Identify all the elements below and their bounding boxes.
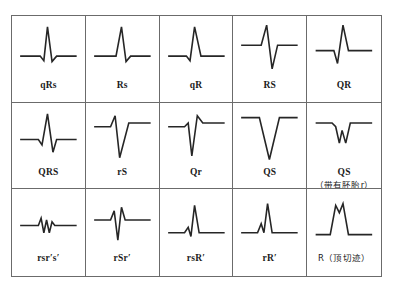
- qrs-label-group: qR: [190, 78, 203, 91]
- qrs-cell-rsR-prime: rsR′: [160, 189, 234, 276]
- qrs-label: rR′: [263, 253, 277, 264]
- qrs-label: Rs: [117, 80, 128, 91]
- waveform-trace: [316, 204, 373, 235]
- ecg-waveform-rSr-prime: [86, 189, 159, 251]
- waveform-trace: [20, 114, 77, 152]
- qrs-morphology-table: qRs Rs qR RS: [11, 15, 382, 277]
- qrs-label-group: rsr′s′: [37, 251, 59, 264]
- qrs-label-group: QS （带有胚胎r）: [315, 165, 374, 190]
- qrs-cell-qR: qR: [160, 16, 234, 103]
- qrs-label-group: rsR′: [187, 251, 205, 264]
- qrs-cell-rR-prime: rR′: [233, 189, 307, 276]
- ecg-waveform-rsr-prime-s-prime: [12, 189, 85, 251]
- waveform-trace: [20, 27, 77, 62]
- waveform-trace: [94, 208, 151, 241]
- qrs-cell-Qr: Qr: [160, 103, 234, 190]
- qrs-label: rsr′s′: [37, 253, 59, 264]
- qrs-label-group: QRS: [38, 165, 58, 178]
- waveform-trace: [20, 219, 77, 234]
- qrs-label-group: R（顶切迹）: [318, 251, 370, 264]
- waveform-trace: [316, 123, 373, 143]
- qrs-label: QS: [263, 167, 276, 178]
- qrs-cell-RS: RS: [233, 16, 307, 103]
- qrs-label: QR: [337, 80, 352, 91]
- ecg-waveform-QRS: [12, 103, 85, 165]
- qrs-label: rsR′: [187, 253, 205, 264]
- qrs-label: QRS: [38, 167, 58, 178]
- ecg-waveform-R-notched-top: [307, 189, 381, 251]
- qrs-label-group: QS: [263, 165, 276, 178]
- ecg-waveform-QS: [233, 103, 306, 165]
- waveform-trace: [94, 115, 151, 157]
- qrs-sublabel: （带有胚胎r）: [315, 180, 374, 190]
- waveform-trace: [242, 25, 299, 69]
- waveform-trace: [168, 206, 225, 237]
- qrs-cell-QS-embryonic-r: QS （带有胚胎r）: [307, 103, 381, 190]
- waveform-trace: [242, 204, 299, 233]
- qrs-cell-rSr-prime: rSr′: [86, 189, 160, 276]
- ecg-waveform-rR-prime: [233, 189, 306, 251]
- qrs-label: qRs: [40, 80, 56, 91]
- ecg-waveform-Rs: [86, 16, 159, 78]
- ecg-waveform-QR: [307, 16, 381, 78]
- qrs-cell-rsrs-prime: rsr′s′: [12, 189, 86, 276]
- ecg-waveform-rsR-prime: [160, 189, 233, 251]
- waveform-trace: [168, 115, 225, 155]
- ecg-waveform-RS: [233, 16, 306, 78]
- qrs-label-group: rR′: [263, 251, 277, 264]
- qrs-label-group: QR: [337, 78, 352, 91]
- ecg-waveform-Qr: [160, 103, 233, 165]
- qrs-label-group: rSr′: [114, 251, 131, 264]
- ecg-waveform-qRs: [12, 16, 85, 78]
- ecg-waveform-QS-embryonic-r: [307, 103, 381, 165]
- waveform-trace: [316, 25, 373, 63]
- qrs-label: RS: [264, 80, 277, 91]
- qrs-label-group: qRs: [40, 78, 56, 91]
- waveform-trace: [168, 27, 225, 61]
- qrs-label: Qr: [190, 167, 202, 178]
- waveform-trace: [94, 27, 151, 62]
- qrs-cell-rS: rS: [86, 103, 160, 190]
- qrs-cell-QS: QS: [233, 103, 307, 190]
- qrs-label: rS: [117, 167, 127, 178]
- qrs-label: R（顶切迹）: [318, 253, 370, 264]
- qrs-cell-R-notched-top: R（顶切迹）: [307, 189, 381, 276]
- qrs-label-group: rS: [117, 165, 127, 178]
- ecg-waveform-rS: [86, 103, 159, 165]
- qrs-label: qR: [190, 80, 203, 91]
- qrs-cell-Rs: Rs: [86, 16, 160, 103]
- waveform-trace: [242, 117, 299, 159]
- qrs-cell-QRS: QRS: [12, 103, 86, 190]
- qrs-label: QS: [338, 167, 351, 178]
- qrs-label-group: RS: [264, 78, 277, 91]
- ecg-waveform-qR: [160, 16, 233, 78]
- qrs-label-group: Qr: [190, 165, 202, 178]
- qrs-cell-qRs: qRs: [12, 16, 86, 103]
- qrs-label: rSr′: [114, 253, 131, 264]
- qrs-label-group: Rs: [117, 78, 128, 91]
- qrs-cell-QR: QR: [307, 16, 381, 103]
